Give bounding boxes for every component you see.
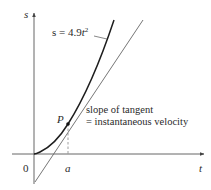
tangent-line [35, 20, 143, 182]
t-axis-label: t [199, 162, 203, 174]
origin-label: 0 [23, 162, 29, 174]
a-tick-label: a [65, 162, 71, 174]
annotation-line1: slope of tangent [86, 104, 153, 115]
equation-prefix: s = 4.9 [52, 26, 82, 38]
position-time-diagram: s t 0 s = 4.9t2 P a slope of tangent = i… [0, 0, 211, 190]
parabola-curve [34, 20, 114, 154]
equation-exp: 2 [85, 26, 89, 34]
point-p-label: P [56, 113, 64, 125]
point-p-marker [66, 122, 70, 126]
s-axis-label: s [24, 8, 28, 20]
curve-equation: s = 4.9t2 [52, 26, 89, 38]
equation-leader-line [94, 36, 107, 39]
annotation-line2: = instantaneous velocity [86, 116, 189, 127]
